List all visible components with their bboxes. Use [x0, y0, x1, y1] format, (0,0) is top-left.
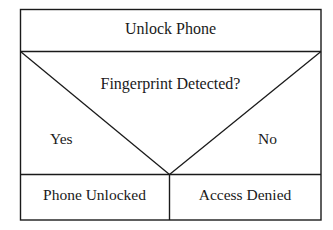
decision-right-diagonal — [170, 52, 322, 175]
no-outcome: Access Denied — [169, 187, 321, 203]
no-branch-label: No — [258, 131, 277, 147]
yes-outcome: Phone Unlocked — [20, 187, 169, 203]
diagram-title: Unlock Phone — [20, 21, 321, 37]
yes-branch-label: Yes — [50, 131, 73, 147]
nassi-shneiderman-diagram: Unlock Phone Fingerprint Detected? Yes N… — [0, 0, 333, 230]
decision-question: Fingerprint Detected? — [20, 76, 321, 92]
decision-left-diagonal — [21, 52, 170, 175]
